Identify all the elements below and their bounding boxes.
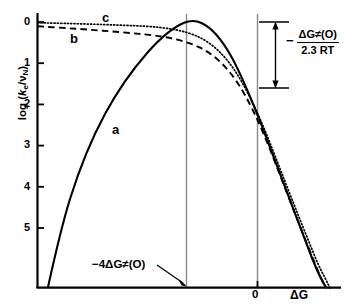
minus-sign: − xyxy=(286,34,294,50)
chart-container: 0 1 2 3 4 5 log (ke/νN) c b a − ΔG≠(O) 2… xyxy=(0,0,345,308)
y-axis-title-suffix: ) xyxy=(16,66,28,70)
lambda-marker-label: −4ΔG≠(O) xyxy=(92,258,145,270)
curve-label-b: b xyxy=(70,31,78,46)
curve-c-dotted xyxy=(38,23,330,288)
fraction-numerator: ΔG≠(O) xyxy=(297,28,339,43)
curve-label-a: a xyxy=(112,122,119,137)
y-axis-title: log (ke/νN) xyxy=(16,38,30,148)
y-tick-label-4: 4 xyxy=(16,180,30,192)
y-axis-title-k: k xyxy=(16,90,28,96)
curve-label-c: c xyxy=(102,10,109,25)
fraction: ΔG≠(O) 2.3 RT xyxy=(297,28,339,57)
curve-b-dashed xyxy=(38,26,326,288)
x-tick-label-zero: 0 xyxy=(252,288,258,300)
barrier-bracket-annotation: − ΔG≠(O) 2.3 RT xyxy=(286,28,339,57)
y-axis-title-slash: / xyxy=(16,82,28,85)
y-tick-label-0: 0 xyxy=(16,15,30,27)
fraction-denominator: 2.3 RT xyxy=(297,43,339,57)
y-axis-title-k-sub: e xyxy=(21,85,30,89)
lambda-pointer-arrow xyxy=(157,265,187,286)
y-tick-label-5: 5 xyxy=(16,221,30,233)
y-axis-title-nu-sub: N xyxy=(21,70,30,76)
barrier-bracket xyxy=(259,22,289,88)
y-axis-title-prefix: log ( xyxy=(16,96,28,120)
y-axis-title-nu: ν xyxy=(16,75,28,81)
x-axis-title: ΔG xyxy=(290,288,308,302)
